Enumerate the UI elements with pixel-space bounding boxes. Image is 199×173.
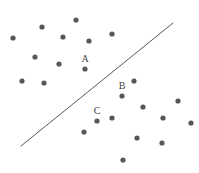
point-label-c: C <box>94 106 101 116</box>
data-point <box>175 98 180 103</box>
data-point <box>86 38 91 43</box>
point-label-a: A <box>81 54 88 64</box>
data-point <box>19 78 24 83</box>
data-point <box>131 78 136 83</box>
data-points-group <box>10 17 193 162</box>
data-point-B <box>119 93 124 98</box>
data-point <box>159 140 164 145</box>
data-point <box>134 135 139 140</box>
scatter-plot-figure: ABC <box>0 0 199 173</box>
point-label-b: B <box>119 81 126 91</box>
data-point <box>56 61 61 66</box>
data-point <box>73 17 78 22</box>
data-point <box>32 54 37 59</box>
data-point-A <box>82 66 87 71</box>
data-point-C <box>94 118 99 123</box>
data-point <box>41 80 46 85</box>
data-point <box>39 24 44 29</box>
data-point <box>60 34 65 39</box>
plot-canvas <box>0 0 199 173</box>
data-point <box>81 129 86 134</box>
data-point <box>140 104 145 109</box>
data-point <box>10 35 15 40</box>
data-point <box>120 157 125 162</box>
data-point <box>188 120 193 125</box>
data-point <box>109 115 114 120</box>
data-point <box>109 31 114 36</box>
data-point <box>160 115 165 120</box>
